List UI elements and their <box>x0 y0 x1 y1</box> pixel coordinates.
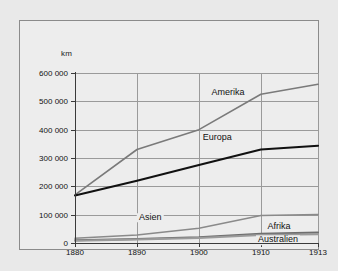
x-axis-tick-label: 1913 <box>309 248 327 257</box>
series-label-afrika: Afrika <box>266 222 293 231</box>
x-axis-tick-label: 1890 <box>128 248 146 257</box>
y-axis-tick-label: 200 000 <box>39 182 68 191</box>
series-label-amerika: Amerika <box>210 88 247 97</box>
series-label-asien: Asien <box>137 213 164 222</box>
y-axis-tick-label: 400 000 <box>39 125 68 134</box>
x-axis-tick-label: 1910 <box>252 248 270 257</box>
gridline-vertical <box>318 73 319 243</box>
y-axis-tick-label: 100 000 <box>39 210 68 219</box>
series-label-europa: Europa <box>201 134 234 143</box>
series-line-europa <box>75 146 318 196</box>
x-axis-tick-label: 1900 <box>190 248 208 257</box>
chart-page: km 0100 000200 000300 000400 000500 0006… <box>0 0 338 271</box>
chart-panel: km 0100 000200 000300 000400 000500 0006… <box>19 20 319 250</box>
y-axis-line <box>75 72 76 244</box>
y-axis-tick-label: 600 000 <box>39 69 68 78</box>
y-axis-tick-label: 300 000 <box>39 154 68 163</box>
y-axis-tick-label: 0 <box>64 239 68 248</box>
y-axis-tick-label: 500 000 <box>39 97 68 106</box>
plot-area: 0100 000200 000300 000400 000500 000600 … <box>75 73 318 243</box>
x-axis-tick-label: 1880 <box>66 248 84 257</box>
series-lines <box>75 73 318 243</box>
series-line-amerika <box>75 84 318 195</box>
y-axis-unit-label: km <box>61 49 72 58</box>
x-axis-line <box>74 243 319 244</box>
